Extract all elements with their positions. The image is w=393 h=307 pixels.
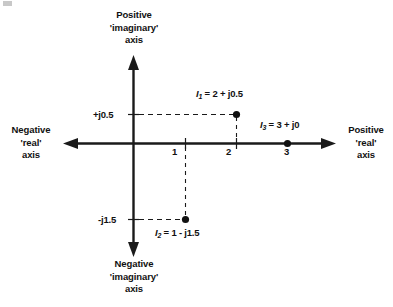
imaginary-axis-positive-arrowhead <box>128 55 139 70</box>
data-point-I2 <box>182 216 189 223</box>
positive-real-axis-label: Positive 'real' axis <box>340 124 392 162</box>
negative-imaginary-axis-label-line1: Negative <box>94 258 174 271</box>
negative-real-axis-label: Negative 'real' axis <box>2 124 60 162</box>
tick-label-real-2: 2 <box>226 146 231 157</box>
point-I2-projection-lines <box>139 147 186 220</box>
positive-imaginary-axis-label-line2: 'imaginary' <box>94 22 174 35</box>
positive-real-axis-label-line3: axis <box>340 149 392 162</box>
point-label-I2-subscript: 2 <box>157 232 161 239</box>
positive-real-axis-label-line1: Positive <box>340 124 392 137</box>
negative-imaginary-axis-label-line2: 'imaginary' <box>94 271 174 284</box>
point-label-I1-subscript: 1 <box>198 93 202 100</box>
point-label-I3: I3 = 3 + j0 <box>260 119 299 130</box>
imaginary-axis <box>128 55 139 257</box>
real-axis-positive-arrowhead <box>321 138 336 149</box>
negative-imaginary-axis-label-line3: axis <box>94 283 174 296</box>
data-point-I1 <box>233 111 240 118</box>
positive-imaginary-axis-label-line1: Positive <box>94 9 174 22</box>
point-label-I3-subscript: 3 <box>262 124 266 131</box>
real-axis-negative-arrowhead <box>63 138 78 149</box>
negative-real-axis-label-line2: 'real' <box>2 137 60 150</box>
point-label-I3-value: = 3 + j0 <box>269 119 300 130</box>
tick-label-negative-j1-5: -j1.5 <box>98 214 116 225</box>
positive-real-axis-label-line2: 'real' <box>340 137 392 150</box>
negative-imaginary-axis-label: Negative 'imaginary' axis <box>94 258 174 296</box>
real-axis <box>63 138 336 149</box>
negative-real-axis-label-line3: axis <box>2 149 60 162</box>
negative-real-axis-label-line1: Negative <box>2 124 60 137</box>
positive-imaginary-axis-label: Positive 'imaginary' axis <box>94 9 174 47</box>
point-label-I2-value: = 1 - j1.5 <box>164 227 200 238</box>
tick-label-real-1: 1 <box>172 146 177 157</box>
tick-label-positive-j0-5: +j0.5 <box>93 109 113 120</box>
point-I1-projection-lines <box>139 115 237 141</box>
imaginary-axis-negative-arrowhead <box>128 242 139 257</box>
point-label-I2: I2 = 1 - j1.5 <box>155 227 199 238</box>
positive-imaginary-axis-label-line3: axis <box>94 34 174 47</box>
point-label-I1: I1 = 2 + j0.5 <box>196 88 243 99</box>
point-label-I1-value: = 2 + j0.5 <box>205 88 243 99</box>
tick-label-real-3: 3 <box>284 146 289 157</box>
